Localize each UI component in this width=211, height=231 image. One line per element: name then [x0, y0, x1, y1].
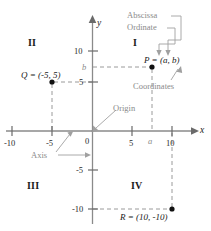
y-axis-label: y: [97, 19, 101, 29]
point-label-p: P = (a, b): [144, 56, 179, 65]
x-tick-label-10: 10: [166, 139, 175, 148]
annotation-origin: Origin: [113, 104, 135, 113]
annotation-ordinate: Ordinate: [127, 23, 157, 32]
x-axis-arrowhead: [191, 127, 199, 135]
y-axis-arrowhead: [89, 15, 97, 23]
annotation-axis: Axis: [31, 151, 47, 160]
annotation-abscissa: Abscissa: [127, 11, 157, 20]
x-axis-label: x: [200, 126, 204, 136]
quadrant-label-ii: II: [28, 38, 36, 48]
y-tick-label--10: -10: [72, 205, 83, 214]
point-r: [169, 206, 174, 211]
point-q: [49, 79, 54, 84]
x-tick-label-a: a: [148, 137, 152, 146]
point-label-q: Q = (-5, 5): [21, 71, 61, 80]
annotation-coordinates: Coordinates: [133, 82, 174, 91]
quadrant-label-i: I: [133, 38, 137, 48]
x-tick-label-5: 5: [129, 139, 133, 148]
axis-arrowheads: [89, 15, 199, 135]
arrowhead-axis-y: [85, 152, 91, 158]
leader-axis-to-x: [56, 134, 70, 152]
leader-abscissa: [168, 16, 181, 52]
y-tick-label--5: -5: [76, 166, 83, 175]
x-tick-label-0: 0: [85, 137, 89, 146]
point-label-r: R = (10, -10): [120, 213, 168, 222]
leader-coordinates: [171, 69, 178, 80]
point-p: [149, 64, 154, 69]
quadrant-label-iii: III: [27, 181, 39, 191]
quadrant-label-iv: IV: [131, 181, 143, 191]
y-tick-label-5: 5: [79, 78, 83, 87]
x-tick-label--5: -5: [46, 139, 53, 148]
y-tick-label-b: b: [82, 63, 86, 72]
axis-lines: [6, 22, 192, 224]
coordinate-plane-figure: II I III IV x y -10 -5 0 5 10 10 5 -5 -1…: [0, 0, 211, 231]
y-tick-label-10: 10: [74, 47, 83, 56]
figure-canvas: [0, 0, 211, 231]
x-tick-label--10: -10: [4, 139, 15, 148]
